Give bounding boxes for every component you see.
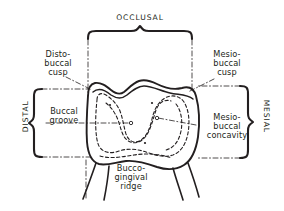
label-distal: DISTAL bbox=[22, 94, 31, 138]
tooth-crown-outline bbox=[87, 80, 199, 169]
label-mesio-buccal-cusp: Mesio- buccal cusp bbox=[198, 50, 256, 78]
label-bucco-gingival-ridge: Bucco- gingival ridge bbox=[100, 164, 162, 192]
occlusal-brace bbox=[88, 26, 192, 39]
label-disto-buccal-cusp: Disto- buccal cusp bbox=[30, 50, 86, 78]
label-mesio-buccal-concavity: Mesio- buccal concavity bbox=[196, 113, 258, 141]
label-buccal-groove: Buccal groove bbox=[36, 107, 92, 125]
leader-disto-buccal-cusp bbox=[66, 77, 92, 90]
label-mesial: MESIAL bbox=[262, 94, 271, 138]
dental-diagram: OCCLUSAL Disto- buccal cusp Mesio- bucca… bbox=[0, 0, 284, 211]
label-occlusal: OCCLUSAL bbox=[104, 14, 176, 23]
